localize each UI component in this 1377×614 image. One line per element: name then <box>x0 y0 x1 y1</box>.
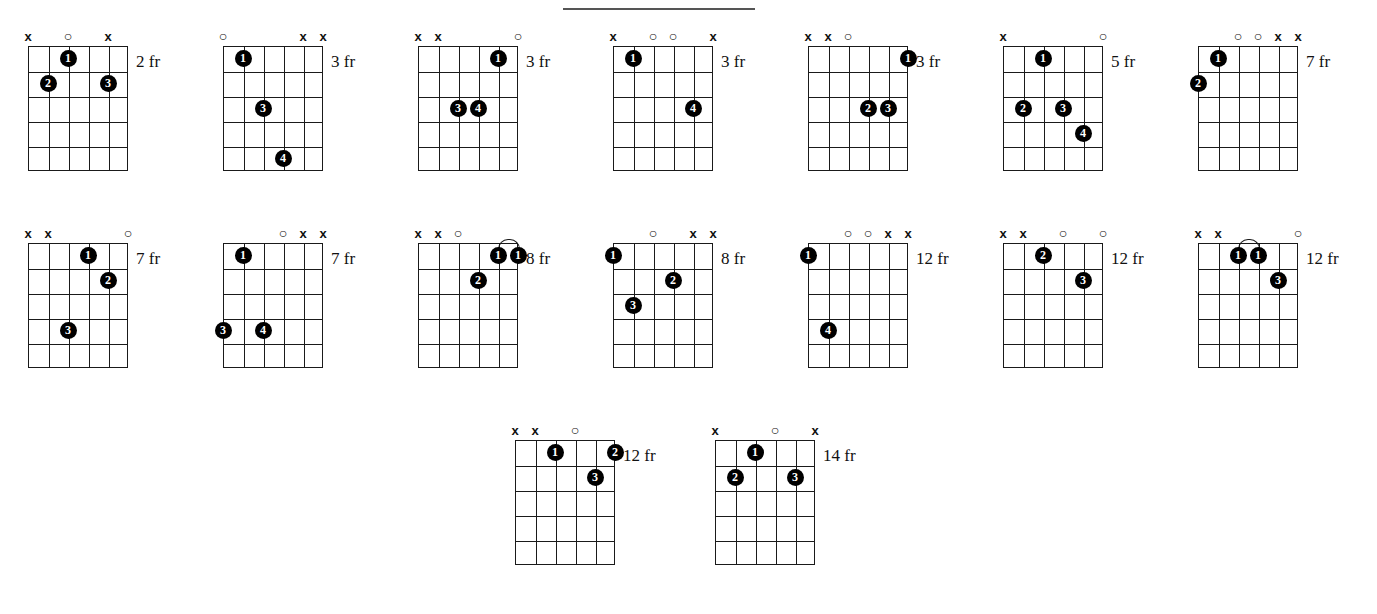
string-markers: x○x <box>715 424 815 438</box>
string-line <box>889 244 890 367</box>
fret-position-label: 3 fr <box>721 52 745 72</box>
fretboard-grid <box>1003 243 1103 368</box>
fret-line <box>29 72 127 73</box>
finger-dot[interactable]: 1 <box>605 247 622 264</box>
chord-diagram[interactable]: ○○xx1412 fr <box>790 227 985 412</box>
open-string-icon: ○ <box>667 30 679 44</box>
chord-diagram[interactable]: xx○○2312 fr <box>985 227 1180 412</box>
muted-string-icon: x <box>687 227 699 241</box>
chord-diagram[interactable]: xx○1128 fr <box>400 227 595 412</box>
chord-diagram[interactable]: xx○1343 fr <box>400 30 595 215</box>
finger-dot[interactable]: 3 <box>1075 272 1092 289</box>
muted-string-icon: x <box>42 227 54 241</box>
fret-line <box>716 541 814 542</box>
finger-dot[interactable]: 1 <box>747 444 764 461</box>
finger-dot[interactable]: 3 <box>625 297 642 314</box>
finger-dot[interactable]: 3 <box>1270 272 1287 289</box>
finger-dot[interactable]: 3 <box>787 469 804 486</box>
muted-string-icon: x <box>297 227 309 241</box>
finger-dot[interactable]: 1 <box>547 444 564 461</box>
finger-dot[interactable]: 2 <box>40 75 57 92</box>
finger-dot[interactable]: 3 <box>450 100 467 117</box>
string-line <box>1084 244 1085 367</box>
open-string-icon: ○ <box>217 30 229 44</box>
finger-dot[interactable]: 3 <box>1055 100 1072 117</box>
finger-dot[interactable]: 1 <box>1230 247 1247 264</box>
finger-dot[interactable]: 1 <box>235 50 252 67</box>
string-line <box>1239 47 1240 170</box>
fret-line <box>224 344 322 345</box>
finger-dot[interactable]: 1 <box>490 247 507 264</box>
string-line <box>654 244 655 367</box>
finger-dot[interactable]: 1 <box>1035 50 1052 67</box>
muted-string-icon: x <box>902 227 914 241</box>
finger-dot[interactable]: 4 <box>1075 125 1092 142</box>
chord-diagram[interactable]: x○○x143 fr <box>595 30 790 215</box>
chord-diagram[interactable]: x○x12314 fr <box>697 424 897 609</box>
finger-dot[interactable]: 1 <box>625 50 642 67</box>
fret-line <box>29 319 127 320</box>
string-markers: x○ <box>1003 30 1103 44</box>
muted-string-icon: x <box>822 30 834 44</box>
finger-dot[interactable]: 1 <box>490 50 507 67</box>
finger-dot[interactable]: 2 <box>727 469 744 486</box>
chord-diagram[interactable]: xx○12312 fr <box>497 424 697 609</box>
string-line <box>49 47 50 170</box>
chord-diagram[interactable]: xx○1237 fr <box>10 227 205 412</box>
finger-dot[interactable]: 3 <box>100 75 117 92</box>
muted-string-icon: x <box>1292 30 1304 44</box>
string-line <box>674 47 675 170</box>
finger-dot[interactable]: 2 <box>1035 247 1052 264</box>
finger-dot[interactable]: 2 <box>100 272 117 289</box>
finger-dot[interactable]: 2 <box>607 444 624 461</box>
chord-diagram[interactable]: x○x1232 fr <box>10 30 205 215</box>
chord-diagram[interactable]: xx○1233 fr <box>790 30 985 215</box>
finger-dot[interactable]: 1 <box>235 247 252 264</box>
finger-dot[interactable]: 2 <box>1190 75 1207 92</box>
finger-dot[interactable]: 3 <box>880 100 897 117</box>
string-markers: ○xx <box>613 227 713 241</box>
finger-dot[interactable]: 1 <box>1250 247 1267 264</box>
string-line <box>829 244 830 367</box>
finger-dot[interactable]: 3 <box>215 322 232 339</box>
muted-string-icon: x <box>707 30 719 44</box>
chord-diagram[interactable]: x○12345 fr <box>985 30 1180 215</box>
finger-dot[interactable]: 2 <box>665 272 682 289</box>
finger-dot[interactable]: 2 <box>860 100 877 117</box>
finger-dot[interactable]: 1 <box>800 247 817 264</box>
finger-dot[interactable]: 1 <box>510 247 527 264</box>
finger-dot[interactable]: 1 <box>900 50 917 67</box>
finger-dot[interactable]: 1 <box>1210 50 1227 67</box>
finger-dot[interactable]: 4 <box>255 322 272 339</box>
string-line <box>849 47 850 170</box>
finger-dot[interactable]: 1 <box>60 50 77 67</box>
open-string-icon: ○ <box>62 30 74 44</box>
muted-string-icon: x <box>707 227 719 241</box>
finger-dot[interactable]: 3 <box>255 100 272 117</box>
chord-chart-page: x○x1232 fr○xx1343 frxx○1343 frx○○x143 fr… <box>0 0 1377 614</box>
chord-diagram[interactable]: ○xx1343 fr <box>205 30 400 215</box>
finger-dot[interactable]: 2 <box>470 272 487 289</box>
fret-line <box>1004 269 1102 270</box>
fret-line <box>614 269 712 270</box>
fret-line <box>809 97 907 98</box>
string-markers: x○○x <box>613 30 713 44</box>
finger-dot[interactable]: 4 <box>275 150 292 167</box>
string-line <box>284 244 285 367</box>
finger-dot[interactable]: 4 <box>470 100 487 117</box>
chord-diagram[interactable]: ○xx1238 fr <box>595 227 790 412</box>
finger-dot[interactable]: 4 <box>820 322 837 339</box>
finger-dot[interactable]: 4 <box>685 100 702 117</box>
fretboard-grid <box>808 243 908 368</box>
fret-line <box>29 122 127 123</box>
chord-diagram[interactable]: xx○11312 fr <box>1180 227 1375 412</box>
fret-line <box>716 491 814 492</box>
chord-diagram[interactable]: ○xx1347 fr <box>205 227 400 412</box>
finger-dot[interactable]: 3 <box>587 469 604 486</box>
open-string-icon: ○ <box>1292 227 1304 241</box>
finger-dot[interactable]: 1 <box>80 247 97 264</box>
chord-diagram[interactable]: ○○xx127 fr <box>1180 30 1375 215</box>
finger-dot[interactable]: 2 <box>1015 100 1032 117</box>
finger-dot[interactable]: 3 <box>60 322 77 339</box>
fret-line <box>1199 97 1297 98</box>
